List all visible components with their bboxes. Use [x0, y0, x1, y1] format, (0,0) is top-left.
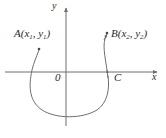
point-label-c: C [114, 72, 121, 83]
y-axis-label: y [52, 1, 56, 11]
figure-svg [0, 0, 166, 138]
math-figure-canvas: y x 0 A(x1, y1) B(x2, y2) C [0, 0, 166, 138]
x-axis-label: x [152, 72, 156, 82]
point-b-close-paren: ) [144, 27, 148, 39]
point-b-letter: B [111, 27, 118, 39]
origin-label: 0 [55, 72, 61, 83]
point-label-a: A(x1, y1) [14, 28, 50, 40]
curve-left-branch [30, 50, 108, 117]
point-a-letter: A [14, 27, 21, 39]
curve-arrow-at-c [107, 70, 108, 78]
point-marker-a [38, 48, 41, 51]
curve-right-branch [104, 36, 107, 70]
point-marker-b [106, 32, 109, 35]
point-label-b: B(x2, y2) [111, 28, 147, 40]
point-a-close-paren: ) [47, 27, 51, 39]
curve-arrow-to-b [104, 34, 107, 40]
